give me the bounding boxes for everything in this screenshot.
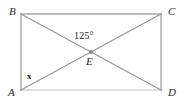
figure-canvas [0, 0, 186, 105]
vertex-label-d: D [168, 87, 176, 98]
vertex-label-b: B [9, 6, 16, 17]
vertex-label-c: C [168, 6, 175, 17]
angle-measure-label: 125° [74, 31, 94, 41]
vertex-label-a: A [8, 87, 15, 98]
vertex-label-e: E [86, 56, 93, 67]
intersection-point-E [89, 50, 93, 54]
unknown-angle-label-x: x [27, 72, 32, 81]
geometry-figure: B C A D E 125° x [0, 0, 186, 105]
